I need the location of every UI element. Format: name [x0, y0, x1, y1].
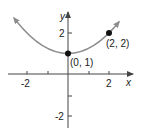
- x-tick-label-neg2: -2: [21, 78, 30, 89]
- graph: y x -2 2 2 -2 (0, 1) (2, 2): [0, 0, 142, 131]
- point-label-0-1: (0, 1): [70, 57, 93, 68]
- y-tick-label-neg2: -2: [55, 111, 64, 122]
- y-tick-label-2: 2: [59, 28, 65, 39]
- y-axis-label: y: [59, 11, 66, 22]
- point-2-2: [106, 30, 112, 36]
- point-label-2-2: (2, 2): [106, 38, 129, 49]
- point-0-1: [65, 51, 71, 57]
- x-axis-label: x: [125, 77, 132, 88]
- x-tick-label-2: 2: [106, 78, 112, 89]
